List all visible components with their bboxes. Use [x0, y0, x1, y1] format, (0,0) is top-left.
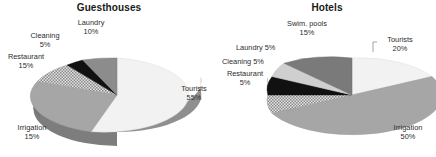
label-cleaning-hotels: Cleaning 5% — [222, 58, 282, 67]
label-tourists-guesthouses: Tourists 55% — [172, 85, 216, 102]
pie-top-guesthouses — [30, 58, 188, 132]
chart-panel-guesthouses: Guesthouses — [0, 0, 218, 157]
label-tourists-hotels: Tourists 20% — [378, 36, 422, 53]
label-cleaning-guesthouses: Cleaning 5% — [22, 32, 68, 49]
label-restaurant-guesthouses: Restaurant 15% — [1, 53, 51, 70]
chart-panel-hotels: Hotels — [218, 0, 436, 157]
tourists-leader-line — [373, 42, 377, 52]
label-swim-pools-hotels: Swim. pools 15% — [277, 20, 337, 37]
label-laundry-hotels: Laundry 5% — [236, 44, 296, 53]
label-irrigation-guesthouses: Irrigation 15% — [6, 124, 58, 141]
pie-charts-figure: Guesthouses — [0, 0, 436, 157]
label-laundry-guesthouses: Laundry 10% — [68, 19, 114, 36]
label-restaurant-hotels: Restaurant 5% — [218, 70, 272, 87]
label-irrigation-hotels: Irrigation 50% — [384, 124, 432, 141]
